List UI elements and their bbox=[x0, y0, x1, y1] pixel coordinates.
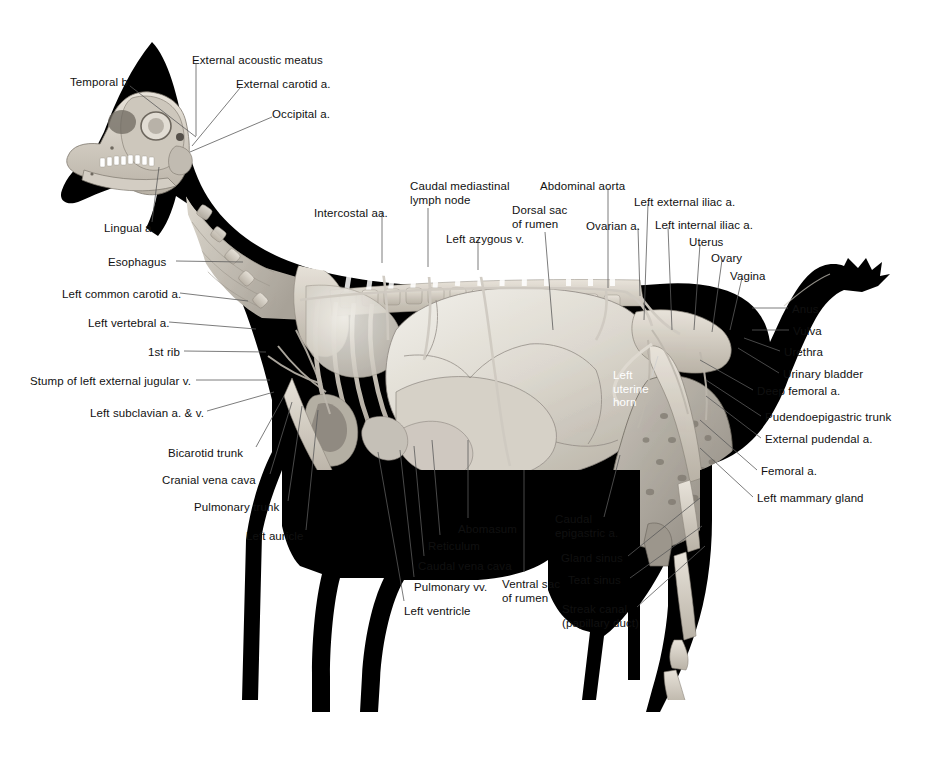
label-abdominal-aorta: Abdominal aorta bbox=[540, 180, 625, 194]
label-pudendoepigastric-trunk: Pudendoepigastric trunk bbox=[765, 411, 891, 425]
label-pulmonary-trunk: Pulmonary trunk bbox=[194, 501, 279, 515]
label-teat-sinus: Teat sinus bbox=[568, 574, 621, 588]
label-ovary: Ovary bbox=[711, 252, 742, 266]
label-left-vertebral-a: Left vertebral a. bbox=[88, 317, 170, 331]
label-left-ventricle: Left ventricle bbox=[404, 605, 471, 619]
label-vagina: Vagina bbox=[730, 270, 766, 284]
label-vulva: Vulva bbox=[793, 325, 822, 339]
label-occipital-a: Occipital a. bbox=[272, 108, 330, 122]
label-streak-canal: Streak canal (papillary duct) bbox=[562, 603, 639, 630]
label-left-subclavian-a-v: Left subclavian a. & v. bbox=[90, 407, 204, 421]
label-lingual-a: Lingual a. bbox=[104, 222, 155, 236]
label-urethra: Urethra bbox=[784, 346, 823, 360]
label-external-pudendal-a: External pudendal a. bbox=[765, 433, 873, 447]
label-left-uterine-horn: Left uterine horn bbox=[613, 369, 649, 410]
label-cranial-vena-cava: Cranial vena cava bbox=[162, 474, 256, 488]
label-reticulum: Reticulum bbox=[428, 540, 480, 554]
label-bicarotid-trunk: Bicarotid trunk bbox=[168, 447, 243, 461]
label-temporal-b: Temporal b. bbox=[70, 76, 131, 90]
label-ovarian-a: Ovarian a. bbox=[586, 220, 640, 234]
label-abomasum: Abomasum bbox=[458, 523, 517, 537]
label-left-common-carotid-a: Left common carotid a. bbox=[62, 288, 181, 302]
label-ventral-sac-of-rumen: Ventral sac of rumen bbox=[502, 578, 560, 605]
label-deep-femoral-a: Deep femoral a. bbox=[757, 385, 840, 399]
label-anus: Anus bbox=[792, 303, 819, 317]
label-caudal-epigastric-a: Caudal epigastric a. bbox=[555, 513, 618, 540]
label-femoral-a: Femoral a. bbox=[761, 465, 817, 479]
label-intercostal-aa: Intercostal aa. bbox=[314, 207, 388, 221]
label-caudal-vena-cava: Caudal vena cava bbox=[418, 560, 512, 574]
label-left-external-iliac-a: Left external iliac a. bbox=[634, 196, 735, 210]
label-external-acoustic-meatus: External acoustic meatus bbox=[192, 54, 323, 68]
label-pulmonary-vv: Pulmonary vv. bbox=[414, 581, 487, 595]
label-left-internal-iliac-a: Left internal iliac a. bbox=[655, 219, 753, 233]
label-1st-rib: 1st rib bbox=[148, 346, 180, 360]
label-left-auricle: Left auricle bbox=[246, 530, 303, 544]
anatomy-plate: Temporal b.External acoustic meatusExter… bbox=[0, 0, 926, 759]
label-external-carotid-a: External carotid a. bbox=[236, 78, 331, 92]
label-caudal-mediastinal-lymph-node: Caudal mediastinal lymph node bbox=[410, 180, 510, 207]
label-uterus: Uterus bbox=[689, 236, 723, 250]
label-esophagus: Esophagus bbox=[108, 256, 166, 270]
label-layer: Temporal b.External acoustic meatusExter… bbox=[0, 0, 926, 759]
label-dorsal-sac-of-rumen: Dorsal sac of rumen bbox=[512, 204, 567, 231]
label-gland-sinus: Gland sinus bbox=[561, 552, 623, 566]
label-left-azygous-v: Left azygous v. bbox=[446, 233, 524, 247]
label-stump-left-ext-jugular-v: Stump of left external jugular v. bbox=[30, 375, 191, 389]
label-urinary-bladder: Urinary bladder bbox=[783, 368, 863, 382]
label-left-mammary-gland: Left mammary gland bbox=[757, 492, 864, 506]
